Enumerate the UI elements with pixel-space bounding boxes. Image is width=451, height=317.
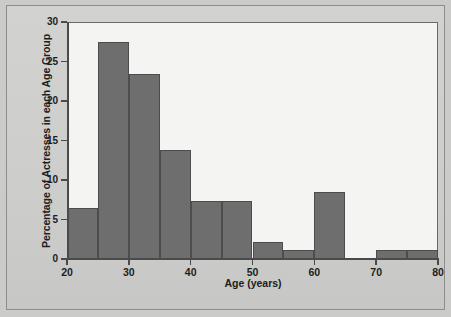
y-tick-mark (61, 219, 67, 220)
y-tick-label: 15 (36, 135, 58, 146)
y-tick-label: 20 (36, 95, 58, 106)
histogram-bar (314, 192, 345, 259)
histogram-bar (253, 242, 284, 259)
x-tick-mark (375, 259, 376, 265)
y-tick-mark (61, 179, 67, 180)
y-tick-label: 25 (36, 56, 58, 67)
histogram-figure: Percentage of Actresses in each Age Grou… (0, 0, 451, 317)
x-tick-mark (128, 259, 129, 265)
y-axis-line (67, 22, 69, 260)
y-tick-label: 5 (36, 214, 58, 225)
histogram-bar (129, 74, 160, 259)
y-tick-label: 30 (36, 16, 58, 27)
y-tick-mark (61, 100, 67, 101)
histogram-bars (67, 22, 438, 259)
x-tick-mark (252, 259, 253, 265)
y-tick-label: 10 (36, 174, 58, 185)
x-tick-mark (437, 259, 438, 265)
y-tick-label: 0 (36, 253, 58, 264)
histogram-bar (98, 42, 129, 259)
y-tick-mark (61, 140, 67, 141)
x-tick-mark (190, 259, 191, 265)
histogram-bar (160, 150, 191, 259)
y-tick-mark (61, 61, 67, 62)
y-tick-mark (61, 21, 67, 22)
x-axis-title: Age (years) (67, 277, 439, 289)
histogram-bar (67, 208, 98, 259)
x-tick-mark (66, 259, 67, 265)
histogram-bar (191, 201, 222, 259)
x-tick-mark (314, 259, 315, 265)
histogram-bar (222, 201, 253, 259)
